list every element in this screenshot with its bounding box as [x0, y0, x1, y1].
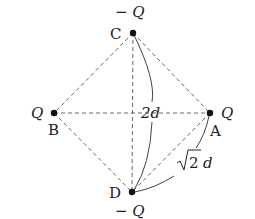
point-c [130, 30, 136, 36]
edge-bd [54, 113, 132, 192]
point-d [129, 189, 135, 195]
charge-a: Q [221, 104, 233, 122]
edge-ca [133, 33, 210, 113]
charge-c: − Q [115, 3, 145, 21]
edge-cb [54, 33, 133, 113]
arc-cd-upper [134, 35, 153, 102]
dashed-edges [54, 33, 210, 192]
point-a [207, 110, 213, 116]
dimension-da-root: 2 [189, 154, 199, 172]
dimension-da-unit: d [203, 154, 213, 172]
label-b: B [48, 121, 59, 139]
label-d: D [109, 184, 121, 202]
charge-d: − Q [115, 202, 145, 219]
point-b [51, 110, 57, 116]
dimension-cd: 2d [140, 104, 160, 122]
edge-cd [132, 33, 133, 192]
label-c: C [110, 25, 121, 43]
arc-da-lower [135, 176, 174, 192]
label-a: A [209, 122, 221, 140]
edge-ad [132, 113, 210, 192]
arc-cd-lower [134, 122, 152, 190]
charge-diagram: − Q C Q B Q A D − Q 2d 2 d [0, 0, 255, 219]
dimension-da: 2 d [177, 150, 213, 172]
charge-b: Q [31, 104, 43, 122]
